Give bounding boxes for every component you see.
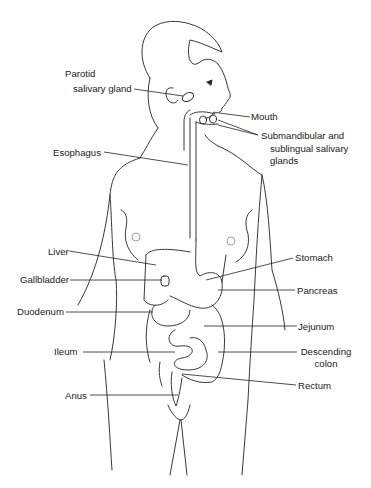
label-esophagus: Esophagus (53, 147, 101, 158)
label-parotid-line1: Parotid (65, 68, 95, 79)
small-intestine-outline (169, 330, 207, 370)
label-submandibular-line3: glands (270, 155, 298, 166)
torso-outline (78, 158, 140, 470)
duodenum-outline (152, 305, 190, 326)
label-gallbladder: Gallbladder (20, 274, 69, 285)
label-parotid-line2: salivary gland (73, 83, 132, 94)
label-pancreas: Pancreas (297, 285, 338, 296)
label-descending-colon-line2: colon (296, 358, 356, 369)
label-submandibular-line1: Submandibular and (261, 130, 344, 141)
esophagus-tube (190, 112, 218, 240)
rectum-outline (171, 372, 182, 406)
label-ileum: Ileum (54, 346, 77, 357)
label-anus: Anus (65, 390, 87, 401)
face-outline (205, 64, 230, 118)
label-mouth: Mouth (251, 111, 278, 122)
label-jejunum: Jejunum (298, 321, 334, 332)
label-submandibular-line2: sublingual salivary (270, 143, 348, 154)
label-descending-colon-line1: Descending (296, 346, 356, 357)
label-rectum: Rectum (298, 380, 331, 391)
liver-outline (144, 249, 190, 305)
label-liver: Liver (48, 246, 69, 257)
label-stomach: Stomach (295, 252, 333, 263)
hair-outline (142, 21, 222, 78)
label-duodenum: Duodenum (17, 306, 64, 317)
digestive-system-diagram: Parotid salivary gland Mouth Submandibul… (0, 0, 371, 488)
body-illustration (0, 0, 371, 488)
